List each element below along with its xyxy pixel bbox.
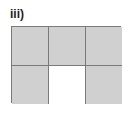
figure-label: iii) [10, 7, 24, 21]
grid-cell-shaded [86, 66, 122, 104]
fraction-grid [11, 26, 121, 103]
grid-cell-shaded [12, 27, 49, 66]
grid-cell-shaded [86, 27, 122, 66]
grid-cell-shaded [12, 66, 49, 104]
grid-cell-shaded [49, 27, 86, 66]
grid-cell-unshaded [49, 66, 86, 104]
